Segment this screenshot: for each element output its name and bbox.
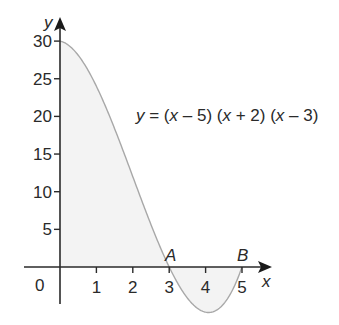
x-axis-label: x <box>261 272 271 291</box>
shaded-area <box>60 41 242 312</box>
origin-label: 0 <box>35 276 44 295</box>
y-ticks: 51015202530 <box>33 32 60 239</box>
point-b-label: B <box>237 246 248 265</box>
y-axis-label: y <box>43 13 54 32</box>
y-tick-label: 20 <box>33 107 52 126</box>
x-tick-label: 3 <box>164 278 173 297</box>
equation-label: y = (x – 5) (x + 2) (x – 3) <box>135 106 318 125</box>
x-tick-label: 5 <box>237 278 246 297</box>
y-tick-label: 10 <box>33 183 52 202</box>
cubic-graph: 12345 51015202530 y x 0 A B y = (x – 5) … <box>0 0 339 325</box>
y-tick-label: 5 <box>43 220 52 239</box>
point-a-label: A <box>164 246 176 265</box>
x-tick-label: 4 <box>201 278 210 297</box>
x-tick-label: 1 <box>92 278 101 297</box>
y-tick-label: 25 <box>33 70 52 89</box>
x-tick-label: 2 <box>128 278 137 297</box>
y-tick-label: 15 <box>33 145 52 164</box>
y-tick-label: 30 <box>33 32 52 51</box>
